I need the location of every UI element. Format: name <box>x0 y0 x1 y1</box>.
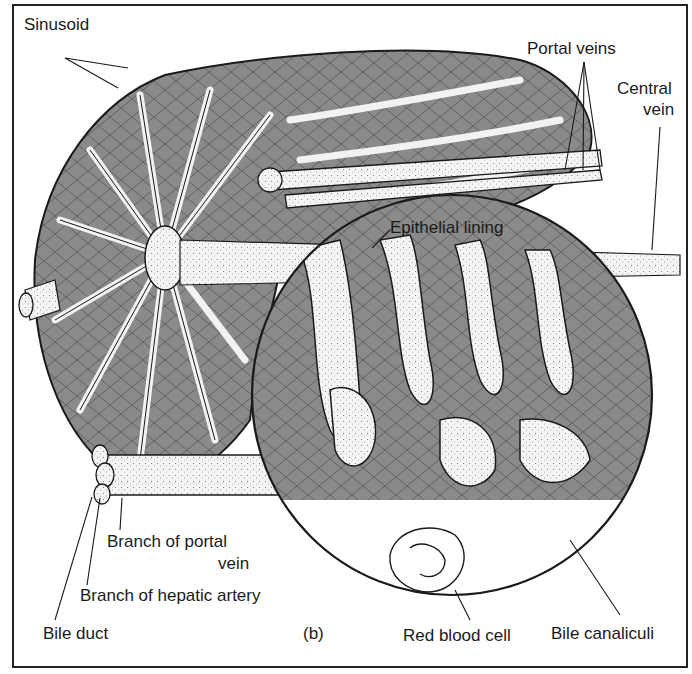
label-central-vein-line1: Central <box>617 80 672 97</box>
label-branch-hepatic-artery: Branch of hepatic artery <box>80 587 260 604</box>
label-branch-portal-vein-line2: vein <box>218 555 249 572</box>
liver-lobule-illustration <box>0 0 692 674</box>
label-central-vein-line2: vein <box>643 101 674 118</box>
label-epithelial-lining: Epithelial lining <box>390 219 503 236</box>
label-bile-canaliculi: Bile canaliculi <box>551 625 654 642</box>
magnified-inset <box>252 195 652 600</box>
label-bile-duct: Bile duct <box>43 625 108 642</box>
label-branch-portal-vein-line1: Branch of portal <box>107 533 227 550</box>
label-portal-veins: Portal veins <box>527 40 616 57</box>
label-sinusoid: Sinusoid <box>24 16 89 33</box>
central-vein-opening <box>145 226 185 290</box>
panel-label: (b) <box>303 625 324 642</box>
label-red-blood-cell: Red blood cell <box>403 627 511 644</box>
red-blood-cell <box>390 528 464 592</box>
